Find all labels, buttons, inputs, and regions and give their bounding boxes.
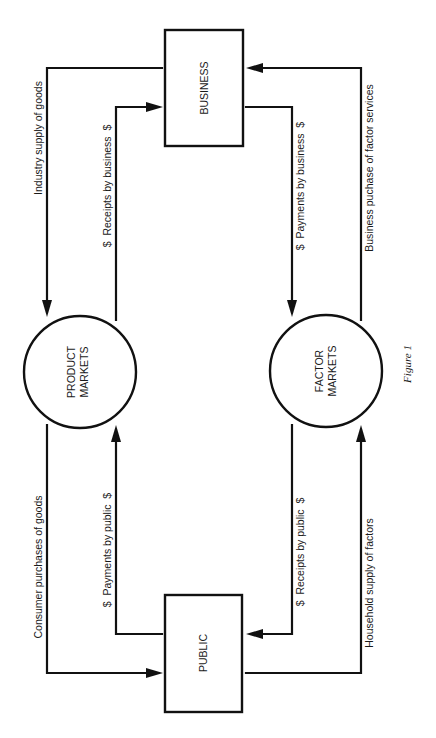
- arrow-right-icon: [146, 668, 163, 678]
- factor-markets-label-line1: FACTOR: [313, 349, 325, 392]
- flow-payments-by-business: [246, 107, 297, 317]
- product-markets-label-line2: MARKETS: [78, 347, 90, 398]
- flow-receipts-by-public: [246, 425, 292, 639]
- business-label: BUSINESS: [198, 61, 210, 114]
- arrow-down-icon: [287, 300, 297, 317]
- payments-by-business-label: $ Payments by business $: [294, 122, 306, 251]
- node-public: PUBLIC: [165, 595, 242, 712]
- arrow-down-icon: [42, 300, 52, 317]
- arrow-right-icon: [146, 102, 163, 112]
- industry-supply-label: Industry supply of goods: [32, 81, 44, 195]
- node-factor-markets: FACTOR MARKETS: [270, 315, 382, 427]
- consumer-purchases-label: Consumer purchases of goods: [32, 496, 44, 639]
- arrow-up-icon: [356, 425, 366, 442]
- arrow-up-icon: [111, 425, 121, 442]
- flow-receipts-by-business: [116, 102, 163, 320]
- node-product-markets: PRODUCT MARKETS: [24, 316, 136, 428]
- node-business: BUSINESS: [165, 30, 243, 146]
- public-label: PUBLIC: [197, 634, 209, 672]
- flow-household-supply: [246, 425, 366, 673]
- arrow-left-icon: [246, 629, 263, 639]
- product-markets-label-line1: PRODUCT: [65, 345, 77, 398]
- payments-by-public-label: $ Payments by public $: [101, 493, 113, 608]
- flow-payments-by-public: [111, 425, 162, 634]
- receipts-by-public-label: $ Receipts by public $: [294, 498, 306, 607]
- figure-caption: Figure 1: [401, 345, 413, 384]
- arrow-left-icon: [246, 63, 263, 73]
- factor-markets-label-line2: MARKETS: [326, 346, 338, 397]
- household-supply-label: Household supply of factors: [363, 518, 375, 648]
- receipts-by-business-label: $ Receipts by business $: [101, 125, 113, 248]
- circular-flow-diagram: BUSINESS PUBLIC PRODUCT MARKETS FACTOR M…: [0, 0, 436, 738]
- business-purchase-label: Business puchase of factor services: [363, 84, 375, 252]
